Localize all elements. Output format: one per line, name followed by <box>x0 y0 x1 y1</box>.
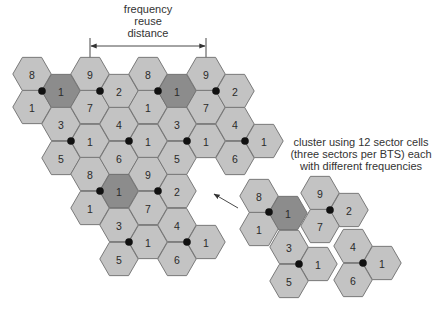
bts-antenna-icon <box>183 137 191 145</box>
cell-frequency-label: 5 <box>286 276 292 288</box>
cell-frequency-label: 1 <box>145 136 151 148</box>
cell-frequency-label: 3 <box>116 220 122 232</box>
cell-frequency-label: 3 <box>58 119 64 131</box>
bts-antenna-icon <box>154 187 162 195</box>
cell-frequency-label: 8 <box>256 191 262 203</box>
cell-frequency-label: 8 <box>87 169 93 181</box>
cell-frequency-label: 3 <box>174 119 180 131</box>
cell-frequency-label: 1 <box>87 203 93 215</box>
bts-antenna-icon <box>326 206 334 214</box>
cell-frequency-label: 9 <box>145 169 151 181</box>
cell-frequency-label: 4 <box>174 220 180 232</box>
cluster-caption-line-3: with different frequencies <box>299 160 423 172</box>
cell-frequency-label: 6 <box>350 275 356 287</box>
cell-frequency-label: 4 <box>232 119 238 131</box>
cell-frequency-label: 4 <box>350 241 356 253</box>
cell-frequency-label: 9 <box>203 69 209 81</box>
cell-frequency-label: 1 <box>315 259 321 271</box>
bts-antenna-icon <box>154 87 162 95</box>
cell-frequency-label: 5 <box>174 153 180 165</box>
cell-frequency-label: 2 <box>346 205 352 217</box>
cell-frequency-label: 4 <box>116 119 122 131</box>
cell-frequency-label: 2 <box>232 86 238 98</box>
cell-frequency-label: 1 <box>261 136 267 148</box>
cell-frequency-label: 1 <box>87 136 93 148</box>
bts-antenna-icon <box>265 208 273 216</box>
cell-frequency-label: 9 <box>317 188 323 200</box>
cell-frequency-label: 1 <box>174 86 180 98</box>
bts-antenna-icon <box>125 137 133 145</box>
reuse-label-line-1: frequency <box>124 3 173 15</box>
bts-antenna-icon <box>96 87 104 95</box>
cell-frequency-label: 2 <box>174 186 180 198</box>
bts-antenna-icon <box>67 137 75 145</box>
cell-frequency-label: 7 <box>145 203 151 215</box>
cell-frequency-label: 1 <box>285 208 291 220</box>
reuse-distance-dimension <box>90 38 206 58</box>
cell-frequency-label: 8 <box>29 69 35 81</box>
cell-frequency-label: 1 <box>203 136 209 148</box>
bts-antenna-icon <box>241 137 249 145</box>
twelve-sector-cluster: 811927315416 <box>240 176 401 297</box>
bts-antenna-icon <box>96 187 104 195</box>
cell-frequency-label: 3 <box>286 242 292 254</box>
sector-reuse-diagram: frequency reuse distance 811359718124613… <box>0 0 437 312</box>
bts-antenna-icon <box>125 238 133 246</box>
pointer-arrow-icon <box>214 194 238 208</box>
cell-frequency-label: 1 <box>116 186 122 198</box>
cell-frequency-label: 1 <box>29 102 35 114</box>
cell-frequency-label: 1 <box>379 258 385 270</box>
reuse-label-line-3: distance <box>128 27 169 39</box>
bts-antenna-icon <box>295 260 303 268</box>
cell-frequency-label: 6 <box>116 153 122 165</box>
bts-antenna-icon <box>359 259 367 267</box>
cell-frequency-label: 6 <box>174 254 180 266</box>
cell-frequency-label: 5 <box>116 254 122 266</box>
cell-frequency-label: 5 <box>58 153 64 165</box>
cluster-caption-line-1: cluster using 12 sector cells <box>293 136 429 148</box>
cell-frequency-label: 1 <box>145 102 151 114</box>
reuse-label-line-2: reuse <box>134 15 162 27</box>
cell-frequency-label: 7 <box>203 102 209 114</box>
cell-frequency-label: 1 <box>58 86 64 98</box>
cluster-caption: cluster using 12 sector cells (three sec… <box>290 136 431 172</box>
cell-frequency-label: 2 <box>116 86 122 98</box>
cell-frequency-label: 1 <box>256 224 262 236</box>
cell-frequency-label: 9 <box>87 69 93 81</box>
bts-antenna-icon <box>38 87 46 95</box>
reuse-distance-label: frequency reuse distance <box>124 3 173 39</box>
cell-frequency-label: 7 <box>317 221 323 233</box>
reuse-pattern-grid: 811359718124613581197113524697112461 <box>13 57 283 275</box>
cluster-caption-line-2: (three sectors per BTS) each <box>290 148 431 160</box>
cell-frequency-label: 8 <box>145 69 151 81</box>
cell-frequency-label: 6 <box>232 153 238 165</box>
cell-frequency-label: 1 <box>145 237 151 249</box>
bts-antenna-icon <box>212 87 220 95</box>
cell-frequency-label: 7 <box>87 102 93 114</box>
cell-frequency-label: 1 <box>203 237 209 249</box>
bts-antenna-icon <box>183 238 191 246</box>
